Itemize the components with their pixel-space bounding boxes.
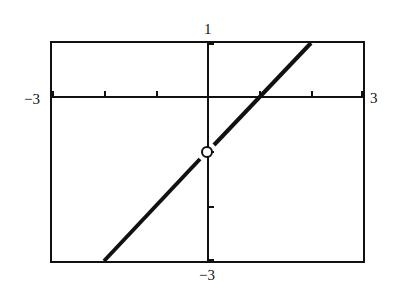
open-circle-hole: [202, 147, 212, 157]
function-line-upper: [214, 43, 311, 145]
function-line-lower: [104, 159, 200, 261]
y-min-label: −3: [199, 268, 215, 283]
graph-canvas: [0, 0, 396, 291]
x-min-label: −3: [24, 92, 40, 107]
x-max-label: 3: [370, 91, 378, 106]
y-max-label: 1: [204, 22, 212, 37]
